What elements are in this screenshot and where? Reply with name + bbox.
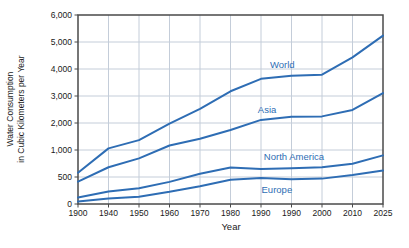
x-axis-title: Year [200, 221, 262, 232]
y-tick-label: 6,000 [51, 10, 73, 20]
series-label-north-america: North America [264, 151, 325, 162]
y-tick-label: 0 [67, 199, 72, 209]
x-tick-label: 1980 [221, 208, 240, 218]
series-label-world: World [270, 59, 295, 70]
x-tick-label: 2010 [343, 208, 362, 218]
x-tick-label: 2000 [313, 208, 332, 218]
x-tick-label: 1970 [191, 208, 210, 218]
x-tick-label: 1960 [160, 208, 179, 218]
x-tick-label: 1990 [282, 208, 301, 218]
water-consumption-chart: Water Consumption in Cubic Kilometers pe… [0, 0, 409, 248]
y-tick-label: 500 [58, 172, 72, 182]
series-label-asia: Asia [258, 104, 277, 115]
x-tick-label: 1900 [69, 208, 88, 218]
x-tick-label: 2025 [374, 208, 393, 218]
y-tick-label: 5,000 [51, 37, 73, 47]
x-tick-label: 1940 [99, 208, 118, 218]
x-tick-label: 1950 [130, 208, 149, 218]
y-tick-label: 1,000 [51, 145, 73, 155]
series-label-europe: Europe [262, 184, 293, 195]
x-tick-label: 1990 [252, 208, 271, 218]
line-chart-plot: 1900194019501960197019801990199020002010… [0, 0, 409, 248]
y-tick-label: 4,000 [51, 64, 73, 74]
y-tick-label: 2,000 [51, 118, 73, 128]
y-tick-label: 3,000 [51, 91, 73, 101]
